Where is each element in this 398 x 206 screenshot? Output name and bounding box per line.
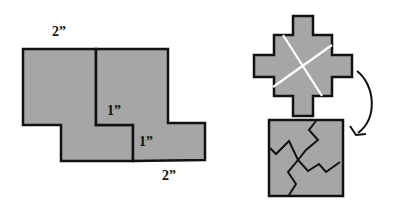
curved-arrow-icon (350, 71, 372, 135)
label-step-1: 1” (107, 103, 121, 118)
label-top-width: 2” (52, 24, 66, 39)
diagram-canvas: 2” 1” 1” 2” (0, 0, 398, 206)
label-step-2: 1” (139, 134, 153, 149)
square-outline (269, 120, 343, 196)
label-bottom-width: 2” (162, 168, 176, 183)
stepped-cross (254, 16, 352, 116)
assembled-square (269, 120, 343, 196)
